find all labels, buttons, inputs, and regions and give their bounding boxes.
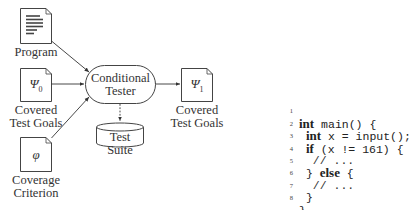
code-line: 3 if (x != 161) { bbox=[283, 118, 303, 130]
covered-goals-input-label: Covered Test Goals bbox=[0, 104, 72, 130]
program-label: Program bbox=[6, 46, 66, 59]
code-line: 5 } else { bbox=[283, 143, 303, 155]
code-line: 6 // ... bbox=[283, 155, 303, 167]
test-suite-label: Test Suite bbox=[96, 131, 144, 157]
code-line: 7 } bbox=[283, 167, 303, 179]
code-line: 1 int main() { bbox=[283, 93, 303, 105]
coverage-criterion-label: Coverage Criterion bbox=[0, 174, 72, 200]
line-number: 8 bbox=[283, 192, 293, 204]
code-listing: 1 int main() { 2 int x = input(); 3 if (… bbox=[283, 93, 303, 192]
code-line: 8 } bbox=[283, 180, 303, 192]
code-text: } bbox=[299, 205, 306, 210]
code-line: 2 int x = input(); bbox=[283, 105, 303, 117]
code-text: int x = input(); bbox=[299, 130, 411, 143]
code-line: 4 // ... bbox=[283, 130, 303, 142]
phi-symbol: φ bbox=[20, 148, 52, 161]
psi0-symbol: Ψ0 bbox=[20, 77, 52, 96]
conditional-tester-label: Conditional Tester bbox=[85, 72, 156, 98]
covered-goals-output-label: Covered Test Goals bbox=[160, 104, 234, 130]
psi1-symbol: Ψ1 bbox=[181, 77, 213, 96]
program-document-icon bbox=[21, 9, 52, 44]
